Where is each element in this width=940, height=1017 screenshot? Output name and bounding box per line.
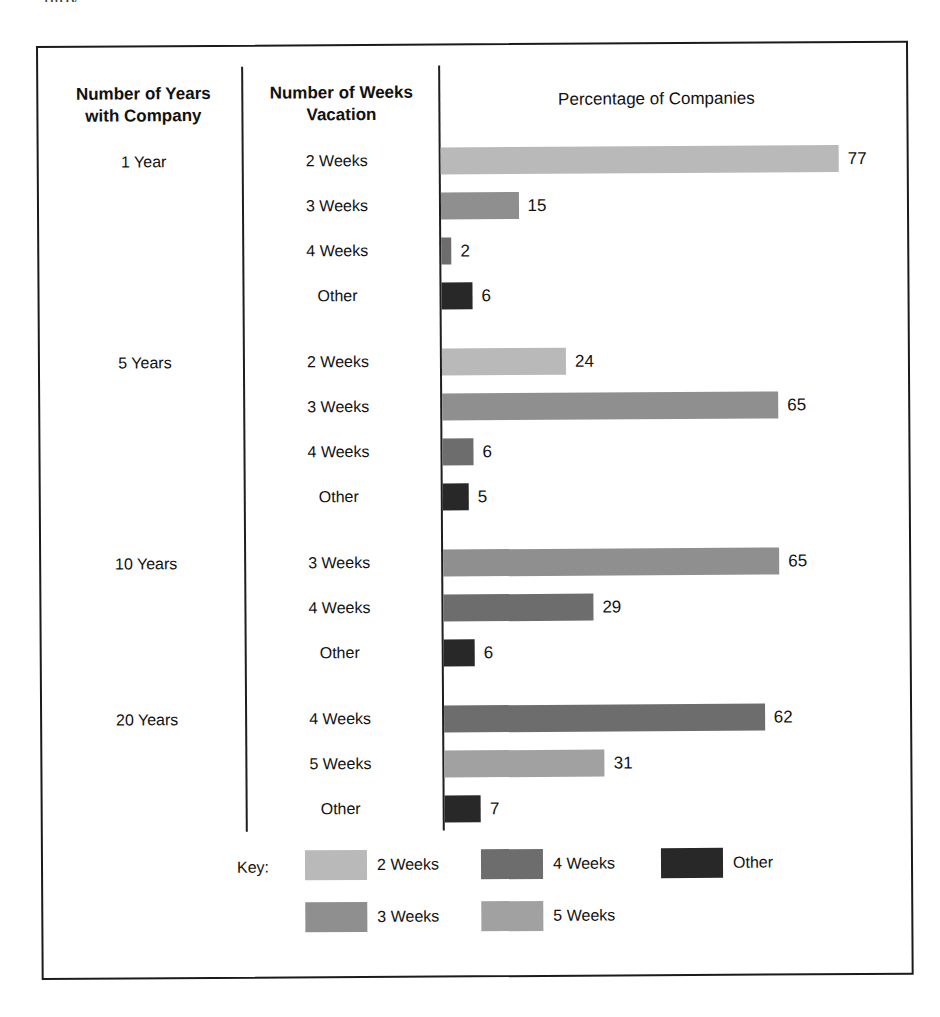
bar xyxy=(442,391,778,420)
bar-value-label: 29 xyxy=(602,593,621,620)
legend-label: 4 Weeks xyxy=(553,848,615,878)
bar xyxy=(444,704,765,733)
bar-value-label: 15 xyxy=(527,192,546,219)
group-label-5-years: 5 Years xyxy=(50,354,240,373)
header-years-column: Number of Years with Company xyxy=(48,83,238,129)
bar-value-label: 6 xyxy=(484,639,494,666)
category-label: 4 Weeks xyxy=(251,599,427,618)
legend-swatch xyxy=(481,901,543,931)
legend-swatch xyxy=(481,849,543,879)
category-label: Other xyxy=(251,488,427,507)
category-label: 3 Weeks xyxy=(250,398,426,417)
category-label: Other xyxy=(249,287,425,306)
column-divider-1 xyxy=(241,67,248,832)
bar-value-label: 6 xyxy=(482,438,492,465)
bar xyxy=(444,639,475,666)
legend-swatch xyxy=(305,902,367,932)
bar xyxy=(441,282,472,309)
header-weeks-line1: Number of Weeks xyxy=(248,82,434,106)
bar-value-label: 65 xyxy=(788,547,807,574)
bar xyxy=(441,237,451,264)
legend-label: 3 Weeks xyxy=(377,902,439,932)
category-label: 4 Weeks xyxy=(249,242,425,261)
scan-edge-artifact: ploy xyxy=(44,0,79,2)
chart-legend: Key: 2 Weeks3 Weeks4 Weeks5 WeeksOther xyxy=(237,841,858,955)
bar xyxy=(442,438,473,465)
category-label: 2 Weeks xyxy=(250,353,426,372)
bar xyxy=(441,192,519,219)
bar-value-label: 6 xyxy=(481,282,491,309)
bar xyxy=(444,750,604,778)
category-label: 3 Weeks xyxy=(249,197,425,216)
header-years-line1: Number of Years xyxy=(48,83,238,107)
header-weeks-column: Number of Weeks Vacation xyxy=(248,82,434,128)
chart-plate: Number of Years with Company Number of W… xyxy=(36,41,910,976)
group-label-10-years: 10 Years xyxy=(51,555,241,574)
category-label: 3 Weeks xyxy=(251,554,427,573)
category-label: 2 Weeks xyxy=(249,152,425,171)
category-label: 5 Weeks xyxy=(252,755,428,774)
bar-value-label: 65 xyxy=(787,391,806,418)
bar xyxy=(443,483,469,510)
bar-value-label: 77 xyxy=(848,145,867,172)
bar xyxy=(441,145,839,174)
group-label-1-year: 1 Year xyxy=(49,153,239,172)
header-years-line2: with Company xyxy=(48,105,238,129)
bar xyxy=(445,795,481,822)
header-weeks-line2: Vacation xyxy=(248,104,434,128)
legend-key-label: Key: xyxy=(237,859,269,877)
plot-body: 1 Year2 Weeks773 Weeks154 Weeks2Other65 … xyxy=(36,41,904,46)
legend-swatch xyxy=(305,850,367,880)
header-percentage-column: Percentage of Companies xyxy=(446,87,866,112)
category-label: Other xyxy=(252,644,428,663)
bar-value-label: 24 xyxy=(575,348,594,375)
bar-value-label: 2 xyxy=(461,237,471,264)
legend-items: 2 Weeks3 Weeks4 Weeks5 WeeksOther xyxy=(237,841,857,845)
bar-value-label: 7 xyxy=(490,795,500,822)
bar xyxy=(443,594,593,622)
legend-swatch xyxy=(661,848,723,878)
category-label: 4 Weeks xyxy=(252,710,428,729)
legend-label: 2 Weeks xyxy=(377,850,439,880)
bar xyxy=(443,547,779,576)
bar-value-label: 62 xyxy=(774,703,793,730)
legend-label: Other xyxy=(733,848,773,878)
category-label: 4 Weeks xyxy=(250,443,426,462)
legend-label: 5 Weeks xyxy=(553,900,615,930)
category-label: Other xyxy=(253,800,429,819)
group-label-20-years: 20 Years xyxy=(52,711,242,730)
bar-value-label: 31 xyxy=(614,749,633,776)
bar xyxy=(442,348,566,376)
bar-value-label: 5 xyxy=(478,483,488,510)
